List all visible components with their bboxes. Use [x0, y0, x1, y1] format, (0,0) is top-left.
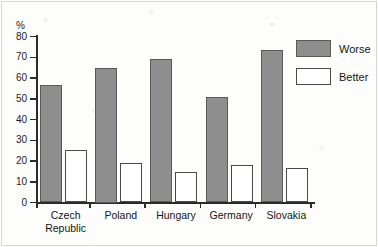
y-axis-tick-label: 10: [0, 176, 27, 187]
x-axis-origin-tick: [36, 203, 38, 208]
bar-chart-figure: % 01020304050607080 CzechRepublicPolandH…: [0, 0, 378, 247]
x-axis-tick: [89, 203, 91, 208]
y-axis-tick: [30, 77, 36, 79]
y-axis-tick-label: 80: [0, 31, 27, 42]
x-axis-category-label-line: Slovakia: [253, 209, 320, 222]
bar-czech-republic-worse: [40, 85, 62, 202]
y-axis-tick-label: 30: [0, 134, 27, 145]
y-axis-tick: [30, 119, 36, 121]
x-axis-category-label-line: Republic: [32, 222, 99, 235]
bar-germany-better: [231, 165, 253, 202]
x-axis-category-label-slovakia: Slovakia: [253, 209, 320, 222]
y-axis-tick-label: 40: [0, 114, 27, 125]
bar-hungary-worse: [150, 59, 172, 202]
y-axis-unit-label: %: [16, 20, 25, 31]
legend-swatch-worse: [296, 40, 331, 57]
y-axis-tick-label: 50: [0, 93, 27, 104]
x-axis-tick: [144, 203, 146, 208]
y-axis-tick: [30, 57, 36, 59]
y-axis-tick-label: 0: [0, 197, 27, 208]
bar-germany-worse: [206, 97, 228, 203]
legend-item-better[interactable]: Better: [296, 68, 371, 85]
legend-label-worse: Worse: [339, 43, 371, 55]
y-axis-tick-label: 70: [0, 51, 27, 62]
bar-hungary-better: [175, 172, 197, 202]
legend-label-better: Better: [339, 71, 368, 83]
y-axis-tick: [30, 98, 36, 100]
chart-legend: WorseBetter: [296, 40, 371, 96]
y-axis-tick: [30, 140, 36, 142]
y-axis-tick-label: 20: [0, 155, 27, 166]
bar-slovakia-worse: [261, 50, 283, 203]
legend-swatch-better: [296, 68, 331, 85]
y-axis-line: [36, 35, 38, 204]
x-axis-tick: [255, 203, 257, 208]
bar-poland-worse: [95, 68, 117, 203]
y-axis-tick: [30, 181, 36, 183]
y-axis-tick-label: 60: [0, 72, 27, 83]
x-axis-tick: [310, 203, 312, 208]
legend-item-worse[interactable]: Worse: [296, 40, 371, 57]
bar-czech-republic-better: [65, 150, 87, 203]
y-axis-tick: [30, 36, 36, 38]
x-axis-tick: [200, 203, 202, 208]
bar-poland-better: [120, 163, 142, 202]
bar-slovakia-better: [286, 168, 308, 202]
y-axis-tick: [30, 160, 36, 162]
